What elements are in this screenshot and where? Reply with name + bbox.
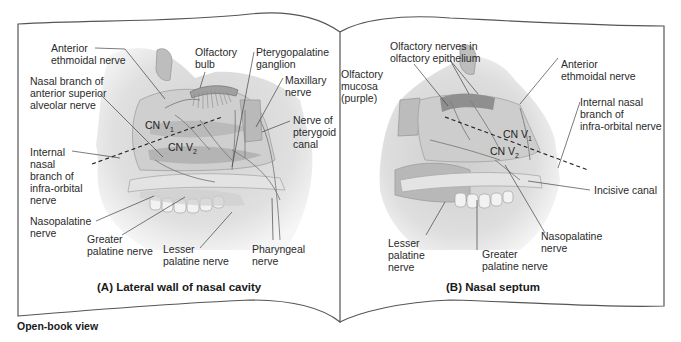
label-a-nasopalatine-nerve: Nasopalatine nerve <box>30 215 91 239</box>
caption-panel-b: (B) Nasal septum <box>446 281 540 293</box>
label-b-internal-nasal-branch-infra-orbital-nerve: Internal nasal branch of infra-orbital n… <box>580 96 662 132</box>
label-a-nerve-of-pterygoid-canal: Nerve of pterygoid canal <box>293 114 336 150</box>
label-b-incisive-canal: Incisive canal <box>594 184 657 196</box>
label-a-anterior-ethmoidal-nerve: Anterior ethmoidal nerve <box>51 42 126 66</box>
label-a-nasal-branch-anterior-superior-alveolar-nerve: Nasal branch of anterior superior alveol… <box>30 75 106 111</box>
label-a-greater-palatine-nerve: Greater palatine nerve <box>87 233 153 257</box>
label-b-anterior-ethmoidal-nerve: Anterior ethmoidal nerve <box>561 58 636 82</box>
panel-b-illustration <box>380 45 588 250</box>
label-a-maxillary-nerve: Maxillary nerve <box>285 74 326 98</box>
label-a-pharyngeal-nerve: Pharyngeal nerve <box>252 243 305 267</box>
footer-open-book-view: Open-book view <box>17 320 98 332</box>
label-b-greater-palatine-nerve: Greater palatine nerve <box>482 248 548 272</box>
label-b-olfactory-mucosa: Olfactory mucosa (purple) <box>341 68 383 104</box>
label-a-internal-nasal-branch-infra-orbital-nerve: Internal nasal branch of infra-orbital n… <box>30 146 83 206</box>
panel-a-illustration <box>92 48 312 250</box>
label-a-lesser-palatine-nerve: Lesser palatine nerve <box>163 243 229 267</box>
label-b-cn-v1: CN V1 <box>503 128 532 142</box>
label-b-olfactory-nerves-in-olfactory-epithelium: Olfactory nerves in olfactory epithelium <box>390 40 480 64</box>
label-a-cn-v2: CN V2 <box>168 141 197 155</box>
label-b-lesser-palatine-nerve: Lesser palatine nerve <box>388 237 425 273</box>
label-a-pterygopalatine-ganglion: Pterygopalatine ganglion <box>256 46 329 70</box>
label-a-olfactory-bulb: Olfactory bulb <box>195 46 237 70</box>
caption-panel-a: (A) Lateral wall of nasal cavity <box>97 281 261 293</box>
label-a-cn-v1: CN V1 <box>145 119 174 133</box>
label-b-nasopalatine-nerve: Nasopalatine nerve <box>541 230 602 254</box>
label-b-cn-v2: CN V2 <box>490 145 519 159</box>
